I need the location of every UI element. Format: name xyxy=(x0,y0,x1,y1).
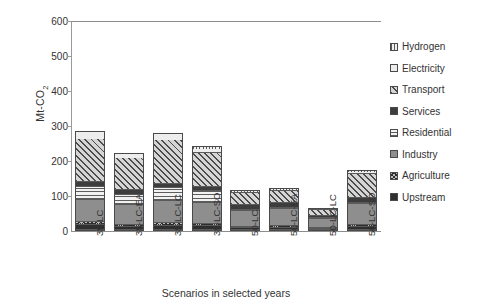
legend-item-label: Electricity xyxy=(402,63,445,74)
y-axis-tick-label: 400 xyxy=(34,86,68,97)
swatch-horizontal-lines-icon xyxy=(390,129,398,137)
y-axis-tick-mark xyxy=(67,196,71,197)
legend-item-transport[interactable]: Transport xyxy=(390,79,480,101)
stacked-bar-chart: Mt-CO2 0100200300400500600 Scenarios in … xyxy=(0,0,481,306)
chart-legend: HydrogenElectricityTransportServicesResi… xyxy=(390,36,480,208)
swatch-solid-darkgray-icon xyxy=(390,107,398,115)
bar-segment-transport xyxy=(115,158,143,191)
legend-item-residential[interactable]: Residential xyxy=(390,122,480,144)
swatch-solid-dark-icon xyxy=(390,193,398,201)
legend-item-label: Industry xyxy=(402,149,438,160)
y-axis-tick-label: 100 xyxy=(34,191,68,202)
swatch-diagonal-hatch-icon xyxy=(390,86,398,94)
legend-item-label: Services xyxy=(402,106,440,117)
legend-item-services[interactable]: Services xyxy=(390,101,480,123)
x-axis-tick-label: 50-LC-SO xyxy=(366,192,377,236)
bar-segment-transport xyxy=(76,139,104,182)
y-axis-tick-label: 600 xyxy=(34,16,68,27)
x-axis-tick-label: 50-LC xyxy=(249,210,260,236)
legend-item-electricity[interactable]: Electricity xyxy=(390,58,480,80)
legend-item-label: Upstream xyxy=(402,192,445,203)
x-axis-tick-label: 35-LC-SO xyxy=(211,192,222,236)
x-axis-tick-label: 50-LC-EA xyxy=(288,193,299,236)
legend-item-industry[interactable]: Industry xyxy=(390,144,480,166)
y-axis-tick-labels: 0100200300400500600 xyxy=(34,0,68,306)
y-axis-tick-mark xyxy=(67,91,71,92)
legend-item-label: Hydrogen xyxy=(402,41,445,52)
bar-segment-transport xyxy=(154,140,182,184)
y-axis-tick-label: 300 xyxy=(34,121,68,132)
legend-item-label: Residential xyxy=(402,127,451,138)
x-axis-tick-label: 35-LC xyxy=(94,210,105,236)
legend-item-hydrogen[interactable]: Hydrogen xyxy=(390,36,480,58)
legend-item-upstream[interactable]: Upstream xyxy=(390,187,480,209)
y-axis-tick-mark xyxy=(67,21,71,22)
swatch-solid-gray-icon xyxy=(390,150,398,158)
x-axis-tick-label: 50-LC-LC xyxy=(327,194,338,236)
y-axis-tick-label: 500 xyxy=(34,51,68,62)
swatch-cross-hatch-icon xyxy=(390,172,398,180)
swatch-plain-light-icon xyxy=(390,64,398,72)
x-axis-title: Scenarios in selected years xyxy=(71,287,381,299)
bar-segment-transport xyxy=(193,153,221,186)
y-axis-tick-label: 200 xyxy=(34,156,68,167)
legend-item-label: Agriculture xyxy=(402,170,450,181)
y-axis-tick-mark xyxy=(67,56,71,57)
y-axis-tick-mark xyxy=(67,161,71,162)
legend-item-label: Transport xyxy=(402,84,444,95)
bar-segment-residential xyxy=(76,187,104,200)
swatch-vertical-lines-icon xyxy=(390,43,398,51)
bar-segment-transport xyxy=(231,193,259,205)
x-axis-tick-label: 35-LC-EA xyxy=(133,193,144,236)
legend-item-agriculture[interactable]: Agriculture xyxy=(390,165,480,187)
y-axis-tick-mark xyxy=(67,126,71,127)
x-axis-tick-label: 35-LC-LC xyxy=(172,194,183,236)
y-axis-tick-label: 0 xyxy=(34,226,68,237)
